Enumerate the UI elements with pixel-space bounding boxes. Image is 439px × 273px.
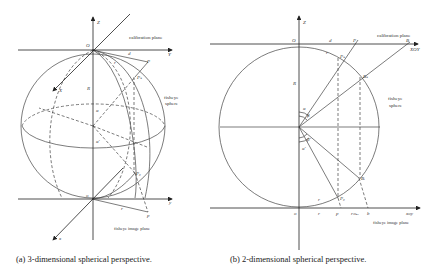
label-alpha-prime: α' <box>96 139 101 144</box>
label-p-top: P <box>352 38 356 43</box>
diagram-3d: Z O Y X calibration plane d r P Pₛ R fis… <box>0 0 215 273</box>
label-sphere: sphere <box>389 103 403 108</box>
panel-2d-spherical-perspective: Z O d P calibration plane B XOY r Pₛ Bₛ … <box>210 0 439 273</box>
caption-b: (b) 2-dimensional spherical perspective. <box>230 254 366 264</box>
label-d: d <box>128 51 131 56</box>
label-bs: Bₛ <box>363 74 368 79</box>
label-beta: β <box>306 113 310 118</box>
x-axis-top <box>53 14 130 91</box>
label-alpha-prime: α' <box>302 146 307 151</box>
label-z: Z <box>303 20 306 25</box>
label-alpha: α <box>303 106 306 111</box>
label-alpha: α <box>96 108 99 113</box>
label-b-bottom: b <box>367 211 370 216</box>
panel-3d-spherical-perspective: Z O Y X calibration plane d r P Pₛ R fis… <box>0 0 215 273</box>
label-x-top: X <box>58 88 63 93</box>
label-origin-top: O <box>292 38 296 43</box>
label-bd: Bᵢ <box>361 176 365 181</box>
label-r-top: r <box>114 60 116 65</box>
label-radius: R <box>292 81 296 86</box>
label-x-bottom: x <box>58 236 62 241</box>
label-y-bottom: y <box>168 200 172 205</box>
label-radius: R <box>86 86 90 91</box>
label-r-bottom: r <box>318 211 320 216</box>
label-fisheye: fisheye <box>164 95 179 100</box>
label-ps: Pₛ <box>136 75 142 80</box>
label-d: d <box>329 38 332 43</box>
label-y-top: Y <box>168 52 172 57</box>
label-ps: Pₛ <box>339 54 345 59</box>
label-xoy-bottom: xoy <box>405 211 414 216</box>
label-p-top: P <box>146 59 150 64</box>
label-p-bottom: p <box>146 213 150 218</box>
label-b-top: B <box>406 38 409 43</box>
label-pd: P₀ <box>339 196 345 201</box>
label-xoy: XOY <box>409 47 421 52</box>
label-pd: P₀ <box>135 171 141 176</box>
diagram-2d: Z O d P calibration plane B XOY r Pₛ Bₛ … <box>210 0 439 273</box>
label-origin-top: O <box>86 43 90 48</box>
label-fisheye-image-plane: fisheye image plane <box>373 220 409 225</box>
label-sphere: sphere <box>165 101 179 106</box>
label-fisheye: fisheye <box>388 96 403 101</box>
label-r-curve: r <box>318 197 320 202</box>
label-origin-bottom: o <box>294 211 297 216</box>
label-beta-prime: β' <box>306 137 311 142</box>
label-fisheye-image-plane: fisheye image plane <box>114 226 150 231</box>
label-p-bottom: p <box>335 211 339 216</box>
label-origin-bottom: o <box>86 193 89 198</box>
caption-a: (a) 3-dimensional spherical perspective. <box>16 254 152 264</box>
label-r-bottom: r <box>121 206 123 211</box>
label-r-top: r <box>326 50 328 55</box>
label-r-max: rₘₐₓ <box>351 211 359 216</box>
label-z: Z <box>97 20 100 25</box>
label-calibration-plane: calibration plane <box>129 35 163 40</box>
